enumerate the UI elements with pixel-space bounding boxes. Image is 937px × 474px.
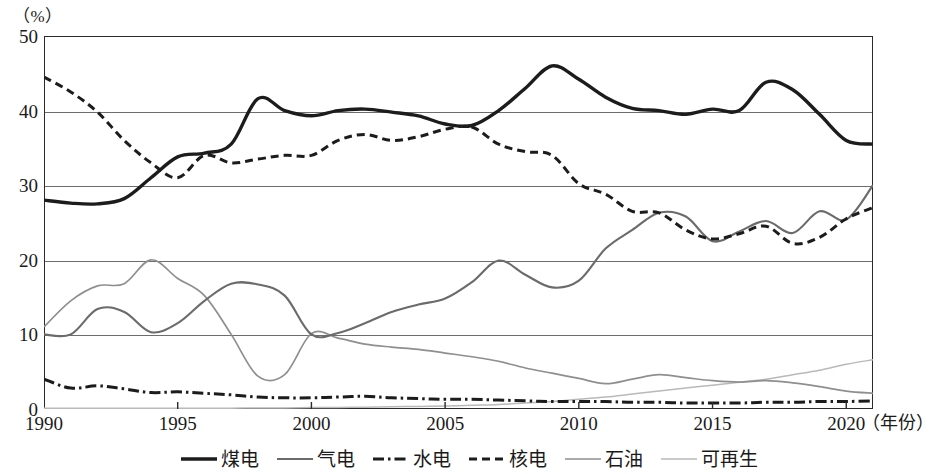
x-axis-tick: 2010 <box>560 412 598 436</box>
x-axis-tick: 1995 <box>159 412 197 436</box>
legend-swatch-icon <box>564 452 602 466</box>
y-axis-tick: 20 <box>0 250 38 269</box>
gridline <box>45 186 872 187</box>
legend-label: 煤电 <box>221 450 259 469</box>
legend-item[interactable]: 石油 <box>564 450 643 469</box>
y-axis-tick: 40 <box>0 101 38 120</box>
legend-swatch-icon <box>276 452 314 466</box>
legend-swatch-icon <box>180 452 218 466</box>
legend-label: 水电 <box>413 450 451 469</box>
legend-item[interactable]: 可再生 <box>660 450 758 469</box>
legend-swatch-icon <box>372 452 410 466</box>
legend-label: 核电 <box>509 450 547 469</box>
legend-label: 可再生 <box>701 450 758 469</box>
y-axis-tick: 50 <box>0 27 38 46</box>
y-axis-tick: 10 <box>0 325 38 344</box>
legend-item[interactable]: 气电 <box>276 450 355 469</box>
chart-legend: 煤电气电水电核电石油可再生 <box>0 444 937 474</box>
plot-area <box>44 36 873 409</box>
gridline <box>45 335 872 336</box>
legend-label: 石油 <box>605 450 643 469</box>
legend-item[interactable]: 核电 <box>468 450 547 469</box>
gridline <box>45 261 872 262</box>
chart-page: （%） 01020304050 199019952000200520102015… <box>0 0 937 474</box>
legend-label: 气电 <box>317 450 355 469</box>
x-axis-tick: 2000 <box>292 412 330 436</box>
legend-swatch-icon <box>468 452 506 466</box>
legend-item[interactable]: 水电 <box>372 450 451 469</box>
gridline <box>45 112 872 113</box>
legend-swatch-icon <box>660 452 698 466</box>
x-axis-tick: 2015 <box>694 412 732 436</box>
y-axis-tick-labels: 01020304050 <box>0 36 38 409</box>
y-axis-unit-label: （%） <box>13 2 63 27</box>
x-axis-tick: 2020 <box>827 412 865 436</box>
x-axis-title: （年份） <box>862 412 934 435</box>
x-axis-tick: 2005 <box>426 412 464 436</box>
x-axis-tick: 1990 <box>25 412 63 436</box>
legend-item[interactable]: 煤电 <box>180 450 259 469</box>
x-axis-tick-labels: 1990199520002005201020152020 <box>0 412 937 440</box>
y-axis-tick: 30 <box>0 176 38 195</box>
